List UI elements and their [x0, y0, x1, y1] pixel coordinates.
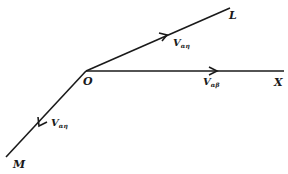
label-V-OX: Vαβ — [203, 76, 219, 89]
line-OL — [86, 8, 230, 71]
line-OM — [6, 71, 86, 157]
label-L: L — [228, 9, 237, 22]
label-O: O — [83, 75, 93, 88]
vector-diagram: L O X M Vαη Vαβ Vαη — [0, 0, 288, 174]
label-V-OM: Vαη — [51, 117, 68, 130]
label-M: M — [12, 158, 26, 171]
label-X: X — [273, 76, 283, 89]
label-V-OL: Vαη — [173, 37, 190, 50]
